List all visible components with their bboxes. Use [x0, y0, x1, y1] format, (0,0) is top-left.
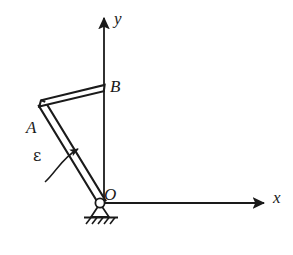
bar-AB [39, 85, 104, 107]
axes-group [104, 18, 264, 203]
mechanics-figure: y x B A O ε [0, 0, 293, 255]
point-label-a: A [26, 119, 36, 136]
figure-canvas [0, 0, 293, 255]
x-axis-label: x [273, 189, 281, 206]
point-label-b: B [110, 78, 120, 95]
joint-A-cap [41, 100, 45, 102]
point-label-o: O [104, 186, 116, 203]
bar-AB-body [39, 85, 104, 107]
y-axis-label: y [114, 10, 122, 27]
epsilon-label: ε [33, 148, 41, 164]
